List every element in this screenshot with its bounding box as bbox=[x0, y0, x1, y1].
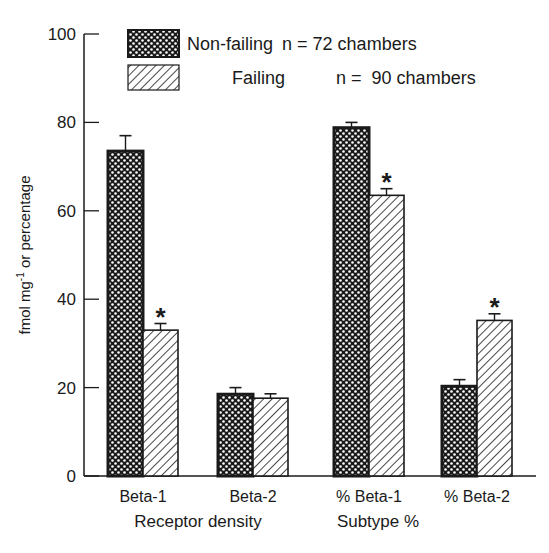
bars: *** bbox=[108, 122, 512, 476]
bar bbox=[108, 151, 143, 476]
significance-star: * bbox=[155, 302, 166, 332]
bar-non-failing-1 bbox=[218, 388, 253, 476]
bar bbox=[218, 394, 253, 476]
y-axis-label: fmol mg-1 or percentage bbox=[15, 176, 33, 335]
y-tick-label: 20 bbox=[57, 379, 76, 398]
y-tick-label: 0 bbox=[67, 467, 76, 486]
bar-non-failing-0 bbox=[108, 136, 143, 476]
legend-item-non-failing: Non-failing n = 72 chambers bbox=[128, 30, 417, 57]
bar bbox=[253, 398, 288, 476]
x-tick-label: Beta-2 bbox=[229, 488, 276, 505]
x-tick-label: % Beta-2 bbox=[444, 488, 510, 505]
svg-text:Failing n = 90 chambe: Failing n = 90 chambers bbox=[187, 68, 511, 88]
bar bbox=[477, 320, 512, 476]
legend-label-non-failing: Non-failing bbox=[187, 34, 273, 54]
legend-item-failing: Failing n = 90 chambers bbox=[128, 65, 511, 90]
group-labels: Receptor densitySubtype % bbox=[134, 512, 419, 531]
group-label: Subtype % bbox=[337, 512, 419, 531]
bar-failing-1 bbox=[253, 394, 288, 476]
x-tick-label: % Beta-1 bbox=[336, 488, 402, 505]
y-tick-label: 60 bbox=[57, 202, 76, 221]
x-tick-label: Beta-1 bbox=[119, 488, 166, 505]
y-tick-label: 40 bbox=[57, 290, 76, 309]
bar bbox=[334, 128, 369, 476]
svg-text:Non-failing n = 72 cha: Non-failing n = 72 chambers bbox=[187, 34, 417, 54]
legend-label-failing: Failing bbox=[232, 68, 285, 88]
legend-n-failing: n = 90 chambers bbox=[336, 68, 476, 88]
bar-non-failing-2 bbox=[334, 122, 369, 476]
bar-non-failing-3 bbox=[442, 380, 477, 476]
y-tick-label: 100 bbox=[48, 25, 76, 44]
bar-failing-2 bbox=[369, 189, 404, 476]
legend: Non-failing n = 72 chambers Failing n = … bbox=[128, 30, 511, 90]
significance-star: * bbox=[381, 167, 392, 197]
bar-chart: 020406080100 fmol mg-1 or percentage ***… bbox=[0, 0, 549, 553]
significance-star: * bbox=[489, 292, 500, 322]
legend-n-non-failing: n = 72 chambers bbox=[282, 34, 417, 54]
bar-failing-0 bbox=[143, 324, 178, 476]
legend-swatch-diagonal bbox=[128, 65, 179, 90]
x-tick-labels: Beta-1Beta-2% Beta-1% Beta-2 bbox=[119, 488, 510, 505]
bar bbox=[143, 330, 178, 476]
y-tick-label: 80 bbox=[57, 113, 76, 132]
bar-failing-3 bbox=[477, 314, 512, 476]
group-label: Receptor density bbox=[134, 512, 262, 531]
bar bbox=[442, 386, 477, 476]
y-ticks: 020406080100 bbox=[48, 25, 99, 486]
legend-swatch-crosshatch bbox=[128, 30, 179, 57]
bar bbox=[369, 195, 404, 476]
